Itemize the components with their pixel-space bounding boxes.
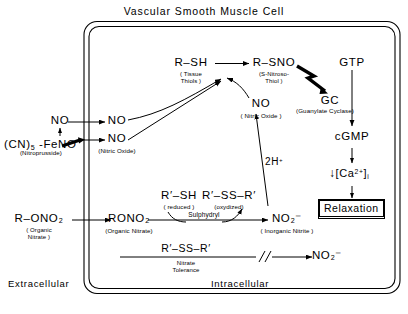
node-no2-minus-bottom: NO₂⁻ [312, 250, 342, 262]
node-no2-minus-sublabel: ( Inorganic Nitrite ) [261, 228, 314, 234]
block-slash-2 [265, 251, 271, 262]
rsno-sub-line1: (S-Nitroso- [259, 71, 289, 78]
node-rsno: R–SNO [253, 57, 296, 69]
node-rono2-extracellular: R–ONO₂ [15, 213, 64, 225]
calcium-compartment: i [367, 173, 369, 180]
diagram-lines [0, 0, 408, 314]
node-gc-sublabel: (Guanylate Cyclase) [296, 108, 354, 114]
arrow-no-bottom-to-rsno [128, 81, 221, 140]
label-intracellular: Intracellular [211, 279, 269, 289]
calcium-open: [Ca [336, 167, 355, 179]
node-cgmp: cGMP [335, 131, 369, 143]
node-rprime-ssr-sublabel: (oxydized) [214, 204, 244, 210]
calcium-charge: 2+ [355, 168, 364, 175]
node-gc: GC [321, 95, 339, 107]
nitrate-tolerance-line2: Tolerance [173, 267, 200, 274]
node-calcium-concentration: ↓[Ca2+]i [329, 167, 369, 180]
rono2-extra-label: R–ONO₂ [15, 212, 64, 224]
node-no-intracellular-bottom-sublabel: (Nitric Oxide) [98, 148, 136, 154]
diagram-canvas: Vascular Smooth Muscle Cell NO (CN)5 -Fe… [0, 0, 408, 314]
node-rprime-ssr-bottom: R′–SS–R′ [161, 243, 211, 254]
node-rprime-sh: R′–SH [161, 190, 197, 202]
node-nitroprusside-sublabel: (Nitroprusside) [20, 150, 62, 156]
block-slash-1 [259, 251, 265, 262]
rsh-sub-line2: Thiols ) [180, 78, 202, 85]
node-rono2-extracellular-sublabel: ( Organic Nitrate ) [26, 227, 52, 241]
page-title: Vascular Smooth Muscle Cell [124, 6, 285, 17]
node-no-centre-sublabel: ( Nitric Oxide ) [240, 113, 281, 119]
rono2-extra-sub-line2: Nitrate ) [26, 234, 52, 241]
node-no-intracellular-top: NO [108, 115, 126, 127]
node-rono2-intracellular: RONO₂ [108, 213, 150, 225]
node-no2-minus: NO₂⁻ [272, 213, 302, 225]
node-relaxation: Relaxation [319, 200, 384, 217]
down-arrow-icon: ↓ [329, 166, 336, 180]
node-rprime-sh-sublabel: ( reduced ) [163, 204, 194, 210]
label-extracellular: Extracellular [8, 279, 69, 289]
node-no-intracellular-bottom: NO [108, 133, 126, 145]
relaxation-label: Relaxation [324, 202, 379, 214]
arrow-no-centre-to-rsno [227, 78, 249, 98]
nitrate-tolerance-line1: Nitrate [173, 260, 200, 267]
rsh-sub-line1: ( Tissue [180, 71, 202, 78]
label-sulphydryl: Sulphydryl [188, 212, 219, 219]
node-no-centre: NO [252, 98, 270, 110]
node-rono2-intracellular-sublabel: (Organic Nitrate) [105, 228, 152, 234]
node-gtp: GTP [339, 57, 364, 69]
rono2-extra-sub-line1: ( Organic [26, 227, 52, 234]
two-h-label: 2H [265, 156, 279, 167]
node-no-extracellular: NO [51, 115, 69, 127]
node-rsh-sublabel: ( Tissue Thiols ) [180, 71, 202, 85]
rsno-sub-line2: Thiol ) [259, 78, 289, 85]
label-nitrate-tolerance: Nitrate Tolerance [173, 260, 200, 274]
node-two-h-plus: 2H+ [265, 157, 283, 167]
node-rsno-sublabel: (S-Nitroso- Thiol ) [259, 71, 289, 85]
node-rprime-ssr: R′–SS–R′ [202, 190, 256, 202]
node-rsh: R–SH [174, 57, 207, 69]
two-h-charge: + [279, 156, 283, 163]
arrow-no-top-to-rsno [128, 79, 221, 120]
lightning-bolt-activation [297, 66, 325, 91]
